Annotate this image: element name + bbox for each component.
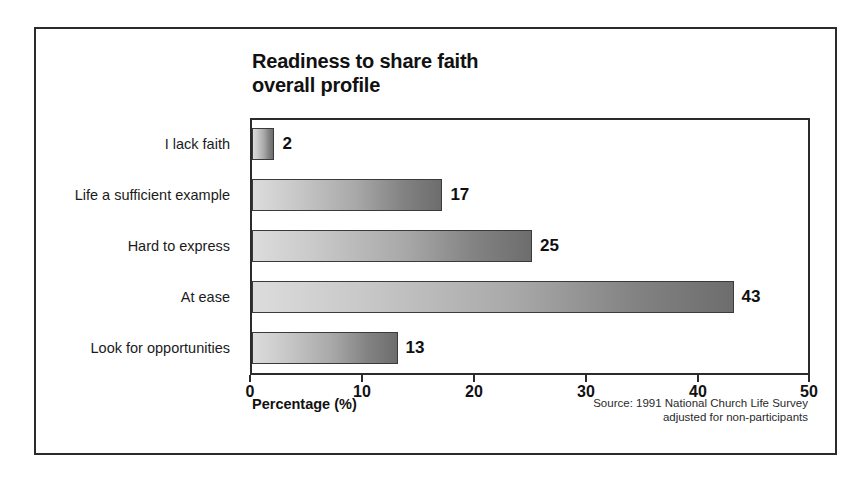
xtick-mark-1 xyxy=(361,375,363,382)
xtick-label-2: 20 xyxy=(465,383,483,401)
bar-4 xyxy=(252,332,398,364)
xtick-mark-4 xyxy=(697,375,699,382)
chart-title-line-2: overall profile xyxy=(252,73,652,97)
source-note-line-1: Source: 1991 National Church Life Survey xyxy=(593,396,808,410)
bar-value-2: 25 xyxy=(532,236,559,256)
category-label-1: Life a sufficient example xyxy=(0,179,240,211)
bar-value-0: 2 xyxy=(274,134,291,154)
chart-title-line-1: Readiness to share faith xyxy=(252,49,652,73)
xtick-mark-5 xyxy=(808,375,810,382)
bar-value-3: 43 xyxy=(734,287,761,307)
bar-3 xyxy=(252,281,734,313)
x-axis-title: Percentage (%) xyxy=(252,396,357,412)
category-label-2: Hard to express xyxy=(0,230,240,262)
xtick-mark-0 xyxy=(249,375,251,382)
category-label-0: I lack faith xyxy=(0,128,240,160)
plot-area: 2 17 25 43 13 xyxy=(250,118,810,375)
bar-2 xyxy=(252,230,532,262)
bar-1 xyxy=(252,179,442,211)
bar-0 xyxy=(252,128,274,160)
xtick-mark-3 xyxy=(585,375,587,382)
category-label-4: Look for opportunities xyxy=(0,332,240,364)
bar-value-1: 17 xyxy=(442,185,469,205)
xtick-mark-2 xyxy=(473,375,475,382)
source-note-line-2: adjusted for non-participants xyxy=(593,410,808,424)
bar-value-4: 13 xyxy=(398,338,425,358)
source-note: Source: 1991 National Church Life Survey… xyxy=(593,396,808,424)
plot-inner: 2 17 25 43 13 xyxy=(252,120,808,373)
category-label-3: At ease xyxy=(0,281,240,313)
chart-title: Readiness to share faith overall profile xyxy=(252,49,652,97)
chart-figure: Readiness to share faith overall profile… xyxy=(0,0,863,480)
